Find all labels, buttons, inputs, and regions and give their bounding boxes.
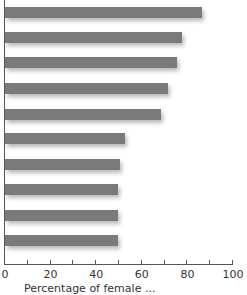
x-tick-mark <box>209 260 210 265</box>
bar <box>5 210 118 221</box>
x-tick-mark <box>186 260 187 265</box>
x-tick-mark <box>141 260 142 265</box>
x-tick-mark <box>118 260 119 265</box>
y-axis-line <box>4 0 5 265</box>
x-tick-label: 40 <box>89 268 103 281</box>
x-tick-mark <box>50 260 51 265</box>
bar <box>5 57 177 68</box>
x-axis-label: Percentage of female ... <box>24 282 155 295</box>
x-tick-mark <box>27 260 28 265</box>
x-tick-label: 100 <box>223 268 244 281</box>
bar <box>5 235 118 246</box>
x-tick-mark <box>72 260 73 265</box>
x-tick-mark <box>232 260 233 265</box>
bar <box>5 159 120 170</box>
x-tick-label: 0 <box>2 268 9 281</box>
bar <box>5 32 182 43</box>
x-tick-mark <box>4 260 5 265</box>
x-tick-label: 80 <box>180 268 194 281</box>
bar <box>5 133 125 144</box>
x-tick-label: 60 <box>135 268 149 281</box>
x-tick-mark <box>95 260 96 265</box>
bar <box>5 109 161 120</box>
bar <box>5 83 168 94</box>
x-tick-mark <box>164 260 165 265</box>
bar <box>5 7 202 18</box>
bar <box>5 184 118 195</box>
x-tick-label: 20 <box>44 268 58 281</box>
